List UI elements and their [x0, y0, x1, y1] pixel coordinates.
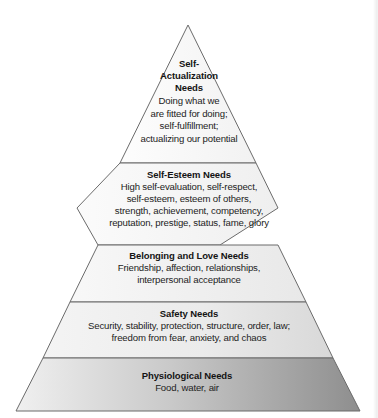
- tier-label-physiological: Physiological Needs Food, water, air: [14, 370, 360, 394]
- tier-body-safety: Security, stability, protection, structu…: [34, 320, 344, 345]
- scan-edge-artifact: [373, 0, 378, 418]
- tier-label-belonging-and-love: Belonging and Love Needs Friendship, aff…: [54, 250, 324, 287]
- tier-body-self-esteem: High self-evaluation, self-respect, self…: [64, 181, 314, 229]
- tier-heading-self-actualization: Self- Actualization Needs: [104, 58, 274, 94]
- tier-heading-self-esteem: Self-Esteem Needs: [64, 169, 314, 180]
- tier-label-self-esteem: Self-Esteem Needs High self-evaluation, …: [64, 169, 314, 230]
- tier-body-belonging-and-love: Friendship, affection, relationships, in…: [54, 262, 324, 287]
- tier-body-physiological: Food, water, air: [14, 382, 360, 394]
- tier-heading-physiological: Physiological Needs: [14, 370, 360, 381]
- tier-label-safety: Safety Needs Security, stability, protec…: [34, 308, 344, 345]
- tier-heading-belonging-and-love: Belonging and Love Needs: [54, 250, 324, 261]
- maslow-pyramid-diagram: Self- Actualization Needs Doing what we …: [0, 0, 378, 418]
- tier-body-self-actualization: Doing what we are fitted for doing; self…: [104, 95, 274, 145]
- tier-heading-safety: Safety Needs: [34, 308, 344, 319]
- tier-label-self-actualization: Self- Actualization Needs Doing what we …: [104, 58, 274, 145]
